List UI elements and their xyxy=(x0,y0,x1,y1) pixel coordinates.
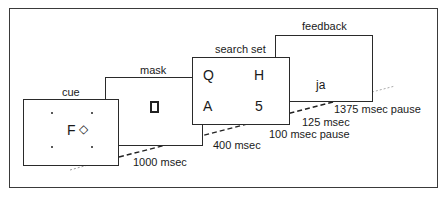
search-item: Q xyxy=(203,67,214,83)
cue-label: cue xyxy=(62,86,80,98)
mask-pattern-icon xyxy=(150,101,159,113)
mask-label: mask xyxy=(140,64,166,76)
cue-dot xyxy=(91,146,93,148)
cue-diamond-icon: ◇ xyxy=(79,122,88,136)
feedback-label: feedback xyxy=(302,20,347,32)
timing-pause1: 100 msec pause xyxy=(269,128,350,140)
search-set-label: search set xyxy=(215,43,266,55)
search-set-frame: Q H A 5 xyxy=(192,57,290,125)
feedback-text: ja xyxy=(316,78,325,92)
timing-pause2: 1375 msec pause xyxy=(334,103,421,115)
search-item: 5 xyxy=(255,98,263,114)
search-item: H xyxy=(254,67,264,83)
timing-cue: 1000 msec xyxy=(133,156,187,168)
cue-frame: F ◇ xyxy=(23,99,119,166)
search-item: A xyxy=(203,98,212,114)
cue-letter: F xyxy=(67,122,76,138)
mask-frame xyxy=(105,77,203,146)
cue-dot xyxy=(91,112,93,114)
timing-mask: 400 msec xyxy=(213,139,261,151)
cue-dot xyxy=(51,146,53,148)
cue-dot xyxy=(51,112,53,114)
timing-search: 125 msec xyxy=(302,116,350,128)
